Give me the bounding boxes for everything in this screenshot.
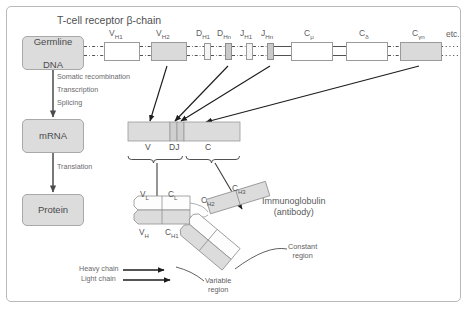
figure-root: T-cell receptor β-chain VH1 VH2 DH1 DHn … <box>0 0 469 314</box>
immunoglobulin-caption: Immunoglobulin (antibody) <box>262 196 326 219</box>
process-label-somatic-recombination: Somatic recombination <box>57 73 130 81</box>
domain-label-vh: VH <box>139 228 149 239</box>
segment-label-dh1: DH1 <box>196 29 210 40</box>
segment-label-dhn: DHn <box>217 29 231 40</box>
segment-box-jhn <box>267 43 274 60</box>
domain-label-ch1: CH1 <box>165 228 179 239</box>
segment-box-cmu <box>291 42 333 61</box>
arrow-cgamman-to-c <box>206 66 419 122</box>
process-label-splicing: Splicing <box>57 99 82 107</box>
stage-germline-line1: Germline <box>34 36 73 47</box>
rearranged-gene-bar <box>128 122 240 141</box>
leader-variable-region <box>176 267 204 281</box>
annotation-constant-region: Constant region <box>288 243 317 261</box>
segment-label-jh1: JH1 <box>240 29 252 40</box>
segment-label-vh2: VH2 <box>156 29 170 40</box>
heavy-chain-left-arm <box>134 210 190 224</box>
stage-germline-line2: DNA <box>34 59 73 70</box>
annotation-variable-region: Variable region <box>205 277 231 295</box>
process-label-transcription: Transcription <box>57 86 98 94</box>
segment-box-dhn <box>225 43 232 60</box>
gene-part-label-dj: DJ <box>169 143 179 152</box>
segment-box-dh1 <box>204 43 211 60</box>
stage-protein: Protein <box>22 194 84 226</box>
chain-callout-arrows <box>123 270 170 280</box>
process-label-translation: Translation <box>57 163 92 171</box>
callout-label-heavy-chain: Heavy chain <box>79 265 119 273</box>
segment-box-vh1 <box>104 42 140 61</box>
segment-label-cmu: Cμ <box>304 29 314 40</box>
segment-label-cdelta: Cδ <box>359 29 369 40</box>
stage-germline-dna: Germline DNA <box>22 36 84 70</box>
gene-part-label-v: V <box>145 143 151 152</box>
immunoglobulin-caption-line1: Immunoglobulin <box>262 196 326 206</box>
stage-mrna-label: mRNA <box>39 130 67 141</box>
recombination-arrows <box>150 66 419 122</box>
domain-label-cl: CL <box>168 190 177 201</box>
callout-label-light-chain: Light chain <box>81 275 116 283</box>
stage-protein-label: Protein <box>38 204 68 215</box>
segment-label-vh1: VH1 <box>109 29 123 40</box>
segment-box-vh2 <box>151 42 187 61</box>
segment-label-jhn: JHn <box>261 29 273 40</box>
segment-box-cgamman <box>400 42 442 61</box>
arrow-vh2-to-v <box>150 66 167 121</box>
segment-label-cgamman: Cγn <box>412 29 425 40</box>
segment-box-jh1 <box>246 43 253 60</box>
figure-title: T-cell receptor β-chain <box>57 15 161 26</box>
arrow-jhn-to-dj <box>181 66 270 121</box>
domain-label-ch3: CH3 <box>232 184 246 195</box>
immunoglobulin-caption-line2: (antibody) <box>274 207 314 217</box>
segment-label-etc: etc. <box>446 30 460 39</box>
arrow-dhn-to-dj <box>175 66 228 121</box>
stage-mrna: mRNA <box>22 119 84 153</box>
gene-part-label-c: C <box>205 143 211 152</box>
segment-box-cdelta <box>346 42 388 61</box>
domain-label-ch2: CH2 <box>201 196 215 207</box>
domain-label-vl: VL <box>140 190 149 201</box>
leader-constant-region <box>235 248 287 269</box>
